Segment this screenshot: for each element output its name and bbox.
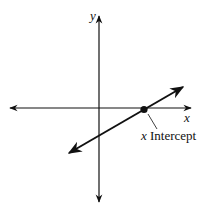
x-intercept-label: x Intercept — [141, 129, 196, 142]
x-axis-label: x — [184, 111, 190, 124]
x-intercept-diagram: y x x Intercept — [0, 0, 197, 214]
x-intercept-text: Intercept — [150, 128, 196, 143]
x-intercept-point — [140, 106, 147, 113]
linear-function-line — [69, 87, 183, 153]
annotation-pointer — [148, 114, 157, 129]
coordinate-plane — [0, 0, 197, 214]
x-intercept-variable: x — [141, 128, 147, 143]
y-axis-label: y — [90, 9, 96, 22]
